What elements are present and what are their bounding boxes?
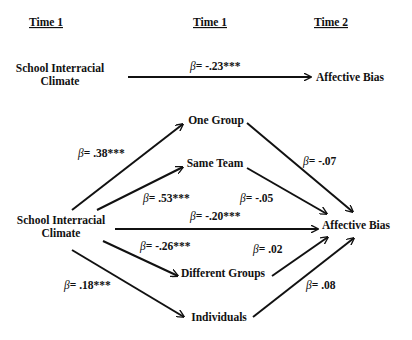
mediation-predictor-line1: School Interracial [17,214,105,226]
mediator-individuals: Individuals [191,311,247,323]
header-time2: Time 2 [314,16,348,28]
coef-climate-to-bias-direct: β= -.20*** [189,210,241,223]
mediator-one-group: One Group [188,114,244,127]
coef-climate-to-different-groups: β= -.26*** [139,240,191,253]
arrow-same-team-to-bias [247,168,327,214]
top-direct-coefficient: β= -.23*** [189,60,241,73]
header-time1-left: Time 1 [29,16,63,28]
coef-climate-to-individuals: β= .18*** [63,279,111,292]
coef-individuals-to-bias: β= .08 [305,279,336,292]
top-outcome: Affective Bias [316,71,385,83]
mediation-outcome: Affective Bias [322,219,391,231]
top-predictor-line1: School Interracial [16,62,104,74]
coef-climate-to-same-team: β= .53*** [142,192,190,205]
coef-same-team-to-bias: β= -.05 [239,192,274,205]
coef-climate-to-one-group: β= .38*** [77,147,125,160]
path-diagram: Time 1 Time 1 Time 2 School Interracial … [0,0,412,340]
mediator-different-groups: Different Groups [181,267,266,280]
mediation-predictor-line2: Climate [42,227,81,239]
coef-one-group-to-bias: β= -.07 [302,155,337,168]
top-predictor-line2: Climate [41,75,80,87]
coef-different-groups-to-bias: β= .02 [252,243,283,256]
mediator-same-team: Same Team [187,157,244,169]
mediation-model: School Interracial Climate One Group Sam… [17,114,391,323]
top-model: School Interracial Climate β= -.23*** Af… [16,60,385,87]
header-time1-middle: Time 1 [193,16,227,28]
